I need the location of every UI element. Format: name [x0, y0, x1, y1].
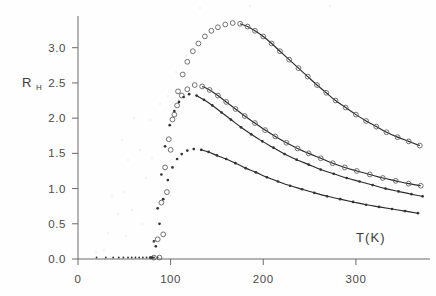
baseline-point: [105, 257, 107, 259]
data-point-open: [165, 190, 170, 195]
data-point-filled: [319, 168, 322, 171]
scan-speck: [125, 235, 127, 237]
scan-speck: [117, 213, 119, 215]
data-point-filled: [186, 149, 189, 152]
scan-speck: [195, 43, 197, 45]
scan-speck: [139, 149, 141, 151]
baseline-point: [138, 257, 140, 259]
data-point-open: [185, 59, 190, 64]
fit-curve: [202, 86, 421, 185]
data-point-filled: [158, 222, 161, 225]
data-point-filled: [272, 146, 275, 149]
data-point-filled: [283, 153, 286, 156]
x-axis-ticks: [78, 259, 356, 265]
scan-speck: [149, 119, 151, 121]
scan-speck: [95, 251, 97, 253]
data-point-filled: [421, 195, 424, 198]
data-point-filled: [192, 148, 195, 151]
data-point-filled: [371, 184, 374, 187]
data-point-filled: [345, 177, 348, 180]
data-point-open: [192, 83, 197, 88]
baseline-point: [127, 257, 129, 259]
data-point-filled: [240, 126, 243, 129]
scan-speck: [199, 7, 201, 9]
data-point-open: [185, 87, 190, 92]
hall-coefficient-chart: 0.00.51.01.52.02.53.0 0100200300 R H T(K…: [0, 0, 436, 296]
data-point-open: [166, 137, 171, 142]
data-point-filled: [156, 207, 159, 210]
scan-speck: [249, 5, 251, 7]
baseline-point: [118, 257, 120, 259]
data-point-filled: [180, 153, 183, 156]
y-axis-tick-labels: 0.00.51.01.52.02.53.0: [48, 42, 66, 265]
scan-speck: [175, 71, 177, 73]
data-point-open: [155, 237, 160, 242]
data-point-filled: [391, 208, 394, 211]
y-axis-ticks: [72, 48, 78, 259]
data-point-open: [417, 143, 422, 148]
data-point-open: [172, 112, 177, 117]
data-point-open: [203, 34, 208, 39]
data-point-open: [175, 103, 180, 108]
data-point-filled: [404, 210, 407, 213]
data-point-filled: [151, 256, 154, 259]
data-point-filled: [332, 172, 335, 175]
baseline-point: [146, 257, 148, 259]
scan-speck: [121, 139, 123, 141]
scan-speck: [153, 241, 155, 243]
data-point-open: [161, 232, 166, 237]
x-axis-title: T(K): [356, 230, 386, 245]
scan-speck: [111, 195, 113, 197]
data-point-open: [168, 147, 173, 152]
data-point-filled: [295, 158, 298, 161]
y-tick-label: 0.0: [48, 253, 66, 265]
data-point-filled: [188, 93, 191, 96]
data-point-filled: [211, 104, 214, 107]
data-point-open: [215, 25, 220, 30]
x-tick-label: 200: [253, 273, 274, 285]
data-point-filled: [289, 184, 292, 187]
y-tick-label: 3.0: [48, 42, 66, 54]
data-point-open: [230, 21, 235, 26]
data-point-filled: [384, 187, 387, 190]
baseline-point: [112, 257, 114, 259]
scan-speck: [127, 159, 129, 161]
data-point-filled: [410, 193, 413, 196]
baseline-point: [122, 257, 124, 259]
x-tick-label: 0: [75, 273, 82, 285]
data-point-open: [190, 49, 195, 54]
data-point-filled: [154, 245, 157, 248]
y-tick-label: 0.5: [48, 218, 66, 230]
data-point-filled: [200, 148, 203, 151]
scan-speck: [329, 5, 331, 7]
baseline-point: [135, 257, 137, 259]
figure-panel: 0.00.51.01.52.02.53.0 0100200300 R H T(K…: [0, 0, 436, 296]
scan-speck: [107, 232, 109, 234]
data-point-filled: [162, 198, 165, 201]
fit-curve: [240, 24, 420, 146]
data-point-filled: [176, 158, 179, 161]
scan-artifacts-layer: [95, 5, 331, 253]
data-point-open: [180, 72, 185, 77]
data-point-filled: [358, 180, 361, 183]
baseline-point: [96, 257, 98, 259]
data-point-open: [159, 200, 164, 205]
data-point-filled: [225, 158, 228, 161]
data-point-open: [163, 165, 168, 170]
y-axis-title: R: [22, 75, 33, 90]
data-point-filled: [173, 110, 176, 113]
data-point-filled: [160, 173, 163, 176]
data-point-filled: [178, 101, 181, 104]
scan-speck: [185, 55, 187, 57]
data-point-filled: [352, 201, 355, 204]
baseline-point: [131, 257, 133, 259]
x-tick-label: 300: [345, 273, 366, 285]
baseline-point: [142, 257, 144, 259]
data-point-filled: [171, 166, 174, 169]
scan-speck: [167, 95, 169, 97]
data-point-open: [170, 117, 175, 122]
axes-layer: [78, 16, 430, 259]
data-point-filled: [261, 140, 264, 143]
data-point-filled: [307, 163, 310, 166]
data-point-filled: [277, 180, 280, 183]
